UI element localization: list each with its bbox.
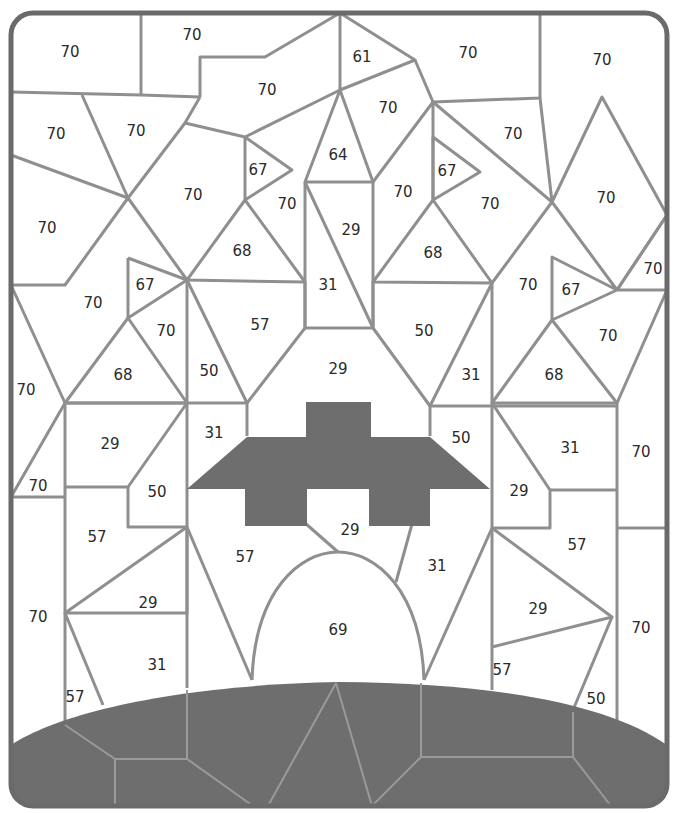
region-number-label: 50 (147, 483, 166, 501)
region-number-label: 70 (458, 44, 477, 62)
region-number-label: 70 (37, 219, 56, 237)
region-number-label: 57 (235, 548, 254, 566)
region-number-label: 70 (277, 195, 296, 213)
region-number-label: 70 (480, 195, 499, 213)
region-number-label: 67 (561, 281, 580, 299)
region-number-label: 70 (28, 477, 47, 495)
region-number-label: 70 (16, 381, 35, 399)
region-number-label: 70 (592, 51, 611, 69)
region-number-label: 70 (46, 125, 65, 143)
region-number-label: 70 (393, 183, 412, 201)
region-number-label: 29 (340, 521, 359, 539)
region-number-label: 70 (60, 43, 79, 61)
region-number-label: 57 (65, 688, 84, 706)
region-number-label: 64 (328, 146, 347, 164)
region-number-label: 70 (598, 327, 617, 345)
region-number-label: 50 (586, 690, 605, 708)
region-number-label: 68 (113, 366, 132, 384)
region-number-label: 70 (183, 186, 202, 204)
region-number-label: 67 (135, 276, 154, 294)
region-number-label: 70 (182, 26, 201, 44)
region-number-label: 31 (427, 557, 446, 575)
region-number-label: 70 (596, 189, 615, 207)
region-number-label: 29 (509, 482, 528, 500)
region-number-label: 70 (257, 81, 276, 99)
region-number-label: 68 (544, 366, 563, 384)
region-number-label: 70 (378, 99, 397, 117)
region-number-label: 50 (414, 322, 433, 340)
region-number-label: 29 (100, 435, 119, 453)
region-number-label: 61 (352, 48, 371, 66)
region-number-label: 70 (83, 294, 102, 312)
region-number-label: 70 (631, 443, 650, 461)
region-number-label: 31 (560, 439, 579, 457)
region-number-label: 50 (199, 362, 218, 380)
region-number-label: 57 (250, 316, 269, 334)
region-number-label: 68 (423, 244, 442, 262)
region-number-label: 70 (156, 322, 175, 340)
region-number-label: 70 (643, 260, 662, 278)
region-number-label: 70 (631, 619, 650, 637)
region-number-label: 67 (248, 161, 267, 179)
region-number-label: 70 (503, 125, 522, 143)
region-number-label: 57 (87, 528, 106, 546)
region-number-label: 29 (528, 600, 547, 618)
region-number-label: 31 (204, 424, 223, 442)
region-number-label: 67 (437, 162, 456, 180)
region-number-label: 29 (138, 594, 157, 612)
region-number-label: 68 (232, 242, 251, 260)
region-number-label: 57 (492, 661, 511, 679)
region-number-label: 69 (328, 621, 347, 639)
region-number-label: 70 (518, 276, 537, 294)
region-number-label: 50 (451, 429, 470, 447)
region-number-label: 29 (328, 360, 347, 378)
region-number-label: 70 (126, 122, 145, 140)
color-by-number-puzzle: 7070617070707070707064676770707070707029… (0, 0, 676, 813)
region-number-label: 31 (461, 366, 480, 384)
region-number-label: 29 (341, 221, 360, 239)
region-number-label: 31 (147, 656, 166, 674)
region-number-label: 70 (28, 608, 47, 626)
region-number-label: 31 (318, 276, 337, 294)
region-number-label: 57 (567, 536, 586, 554)
